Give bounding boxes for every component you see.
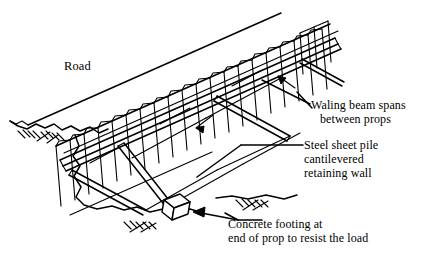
- label-sheetpile-line3: retaining wall: [304, 167, 378, 181]
- engineering-diagram: Road Waling beam spans between props Ste…: [0, 0, 432, 260]
- label-footing-line2: end of prop to resist the load: [228, 232, 368, 246]
- ground-hatching-symbol: [124, 221, 156, 232]
- label-waling-beam: Waling beam spans between props: [311, 99, 406, 127]
- ground-hatching-symbol: [216, 195, 297, 210]
- label-sheetpile-line1: Steel sheet pile: [304, 139, 378, 153]
- label-road: Road: [64, 59, 91, 74]
- label-steel-sheet-pile: Steel sheet pile cantilevered retaining …: [304, 139, 378, 181]
- label-sheetpile-line2: cantilevered: [304, 153, 378, 167]
- prop-right: [214, 96, 290, 141]
- label-waling-line1: Waling beam spans: [311, 99, 406, 113]
- label-concrete-footing: Concrete footing at end of prop to resis…: [228, 218, 368, 246]
- waling-beam-lower: [60, 38, 338, 166]
- arrowhead-waling-far: [278, 76, 295, 88]
- prop-middle: [118, 143, 172, 207]
- concrete-footing-block: [162, 194, 190, 220]
- ground-hatching-symbol: [18, 130, 64, 143]
- label-waling-line2: between props: [311, 113, 406, 127]
- label-footing-line1: Concrete footing at: [228, 218, 368, 232]
- prop-right: [300, 59, 344, 86]
